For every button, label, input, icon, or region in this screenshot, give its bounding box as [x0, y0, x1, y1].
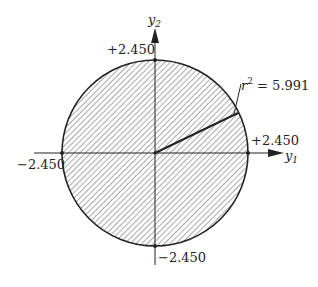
- tick-top: +2.450: [107, 42, 155, 57]
- circle-region-diagram: y2 y1 +2.450 +2.450 −2.450 −2.450 r2 = 5…: [0, 0, 318, 287]
- intercept-right: [246, 151, 250, 155]
- y1-arrow-icon: [268, 149, 284, 157]
- intercept-left: [60, 151, 64, 155]
- y2-label: y2: [147, 12, 161, 29]
- tick-left: −2.450: [17, 157, 65, 172]
- chi-square-annotation: r2 = 5.991: [241, 76, 309, 93]
- origin-dot: [153, 151, 156, 154]
- y1-label: y1: [284, 148, 298, 165]
- tick-bottom: −2.450: [158, 250, 206, 265]
- y2-arrow-icon: [151, 28, 159, 43]
- diagram-canvas: y2 y1 +2.450 +2.450 −2.450 −2.450 r2 = 5…: [0, 0, 318, 287]
- tick-right: +2.450: [251, 133, 299, 148]
- intercept-bottom: [153, 244, 157, 248]
- intercept-top: [153, 58, 157, 62]
